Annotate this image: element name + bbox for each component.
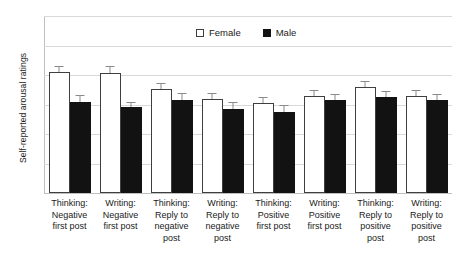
x-tick-label-line: post [197,233,248,245]
bar-female[interactable] [151,89,172,193]
error-bar [182,93,183,100]
bar-wrapper [202,16,223,193]
x-tick-label-line: Reply to [146,210,197,222]
bar-male[interactable] [274,112,295,193]
bar-wrapper [355,16,376,193]
bar-group [350,16,401,193]
error-bar-cap [433,94,442,95]
filled-square-icon [263,29,271,37]
gridline-1 [44,193,452,194]
x-tick-label-line: Thinking: [350,198,401,210]
x-tick-label-line: first post [95,221,146,233]
x-tick-label-line: first post [248,221,299,233]
x-tick-label-line: negative [197,221,248,233]
x-tick-label-line: Thinking: [248,198,299,210]
x-tick-label-line: Negative [44,210,95,222]
error-bar-cap [106,66,115,67]
x-tick-label-line: first post [299,221,350,233]
x-tick-label-line: Writing: [401,198,452,210]
arousal-ratings-bar-chart: Self-reported arousal ratings 1234567 Fe… [0,0,460,267]
legend-item-female[interactable]: Female [196,27,241,38]
x-tick-label-line: Negative [95,210,146,222]
x-axis-tick-labels: Thinking:Negativefirst postWriting:Negat… [44,198,452,266]
bar-group [95,16,146,193]
x-tick-label-line: positive [350,221,401,233]
bar-group [44,16,95,193]
bar-female[interactable] [202,99,223,193]
x-tick-label-line: Reply to [350,210,401,222]
bar-male[interactable] [376,97,397,193]
error-bar-cap [382,91,391,92]
bar-wrapper [376,16,397,193]
bar-group [299,16,350,193]
bar-wrapper [100,16,121,193]
x-tick-label: Writing:Negativefirst post [95,198,146,233]
bar-female[interactable] [49,72,70,193]
x-tick-label-line: post [146,233,197,245]
bar-male[interactable] [427,100,448,193]
legend-label: Male [276,27,297,38]
bar-wrapper [49,16,70,193]
bar-female[interactable] [100,73,121,193]
bar-female[interactable] [355,87,376,193]
x-tick-label: Thinking:Positivefirst post [248,198,299,233]
x-tick-label-line: Writing: [299,198,350,210]
bar-group [401,16,452,193]
bar-female[interactable] [253,103,274,193]
legend-label: Female [209,27,241,38]
x-tick-label-line: post [401,233,452,245]
bar-series-container [44,16,452,193]
bar-wrapper [223,16,244,193]
bar-wrapper [274,16,295,193]
bar-female[interactable] [406,96,427,193]
bar-male[interactable] [172,100,193,193]
error-bar-cap [178,93,187,94]
error-bar-cap [310,90,319,91]
x-tick-label: Thinking:Negativefirst post [44,198,95,233]
bar-wrapper [427,16,448,193]
x-tick-label-line: Positive [248,210,299,222]
x-tick-label-line: negative [146,221,197,233]
bar-male[interactable] [121,107,142,193]
bar-female[interactable] [304,96,325,193]
error-bar-cap [127,102,136,103]
x-tick-label-line: Thinking: [44,198,95,210]
bar-wrapper [304,16,325,193]
x-tick-label-line: first post [44,221,95,233]
error-bar-cap [157,83,166,84]
error-bar-cap [412,90,421,91]
bar-male[interactable] [70,102,91,193]
x-tick-label: Writing:Reply topositivepost [401,198,452,244]
x-tick-label-line: Writing: [95,198,146,210]
x-tick-label-line: Thinking: [146,198,197,210]
bar-wrapper [172,16,193,193]
plot-area: 1234567 [44,16,452,193]
x-tick-label: Writing:Reply tonegativepost [197,198,248,244]
error-bar-cap [208,93,217,94]
x-tick-label: Thinking:Reply tonegativepost [146,198,197,244]
error-bar-cap [259,97,268,98]
open-square-icon [196,29,204,37]
bar-wrapper [325,16,346,193]
x-tick-label: Writing:Positivefirst post [299,198,350,233]
chart-legend: FemaleMale [196,27,318,38]
bar-wrapper [406,16,427,193]
error-bar-cap [55,66,64,67]
bar-group [146,16,197,193]
x-tick-label: Thinking:Reply topositivepost [350,198,401,244]
error-bar-cap [331,94,340,95]
bar-male[interactable] [325,100,346,193]
error-bar-cap [229,102,238,103]
bar-wrapper [253,16,274,193]
x-tick-label-line: Reply to [197,210,248,222]
x-tick-label-line: post [350,233,401,245]
bar-male[interactable] [223,109,244,193]
legend-item-male[interactable]: Male [263,27,297,38]
bar-wrapper [121,16,142,193]
y-axis-title: Self-reported arousal ratings [18,23,28,193]
bar-group [197,16,248,193]
bar-group [248,16,299,193]
x-tick-label-line: Positive [299,210,350,222]
error-bar-cap [361,81,370,82]
x-tick-label-line: positive [401,221,452,233]
